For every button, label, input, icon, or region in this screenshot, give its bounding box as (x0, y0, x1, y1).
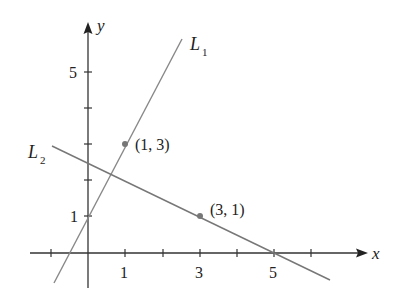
x-tick-label: 1 (120, 264, 128, 281)
y-axis-label: y (95, 16, 105, 35)
x-axis-label: x (371, 244, 380, 263)
point-label-3-1: (3, 1) (210, 201, 245, 219)
l1-label: L 1 (189, 34, 208, 58)
y-tick-label: 1 (70, 208, 78, 225)
coordinate-diagram: y x 1 3 5 1 5 L 1 L 2 (1, 3) (3, 1) (0, 0, 403, 302)
point-label-1-3: (1, 3) (135, 136, 170, 154)
svg-text:L: L (27, 142, 38, 162)
svg-text:2: 2 (40, 154, 46, 166)
l2-label: L 2 (27, 142, 46, 166)
point-3-1 (197, 213, 203, 219)
x-tick-label: 5 (269, 264, 277, 281)
y-axis (84, 22, 93, 288)
y-tick-label: 5 (69, 64, 77, 81)
svg-text:1: 1 (202, 46, 208, 58)
svg-text:L: L (189, 34, 200, 54)
x-axis (30, 249, 368, 258)
line-l2 (52, 146, 330, 280)
x-tick-label: 3 (195, 264, 203, 281)
point-1-3 (122, 141, 128, 147)
